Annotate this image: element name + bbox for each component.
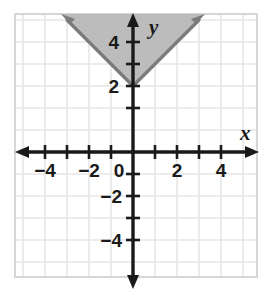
x-tick-label-neg2: −2 [78, 160, 100, 181]
y-tick-label-2: 2 [108, 76, 119, 97]
x-axis-label: x [239, 121, 251, 145]
x-tick-label-neg4: −4 [34, 160, 56, 181]
x-tick-label-4: 4 [216, 160, 227, 181]
graph-svg: −4 −2 0 2 4 4 2 −2 −4 y x [0, 0, 273, 290]
y-axis-bottom-arrow [127, 275, 139, 289]
y-tick-label-4: 4 [108, 32, 119, 53]
y-tick-label-neg2: −2 [100, 186, 122, 207]
x-tick-label-2: 2 [172, 160, 183, 181]
x-tick-label-zero: 0 [114, 160, 125, 181]
y-tick-label-neg4: −4 [100, 230, 122, 251]
coordinate-plane-figure: −4 −2 0 2 4 4 2 −2 −4 y x [0, 0, 273, 290]
